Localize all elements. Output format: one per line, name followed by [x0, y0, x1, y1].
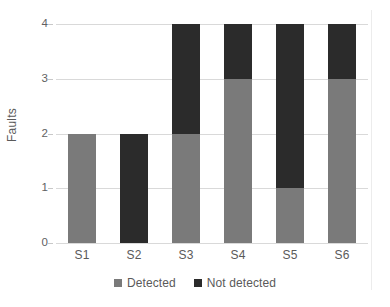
bar-segment[interactable] [224, 24, 252, 79]
chart-legend: DetectedNot detected [0, 276, 390, 290]
legend-item[interactable]: Detected [114, 276, 176, 290]
x-axis-labels: S1S2S3S4S5S6 [56, 248, 368, 268]
stacked-bar-chart: Faults 01234 S1S2S3S4S5S6 DetectedNot de… [0, 0, 390, 307]
y-tick-label: 4 [26, 18, 48, 30]
bars-layer [56, 24, 368, 243]
bar-segment[interactable] [68, 134, 96, 244]
x-tick-label: S2 [108, 248, 160, 262]
bar-segment[interactable] [276, 188, 304, 243]
legend-label: Detected [127, 276, 176, 290]
bar-group[interactable] [68, 24, 96, 243]
plot-area [56, 24, 368, 243]
x-tick-label: S1 [56, 248, 108, 262]
scan-edge-artifact [371, 10, 372, 290]
bar-group[interactable] [120, 24, 148, 243]
y-tick-mark [48, 188, 53, 189]
legend-swatch-icon [194, 279, 202, 287]
y-tick-label: 2 [26, 128, 48, 140]
y-tick-label: 0 [26, 237, 48, 249]
y-tick-mark [48, 79, 53, 80]
bar-segment[interactable] [224, 79, 252, 243]
y-axis-ticks: 01234 [0, 24, 48, 243]
bar-group[interactable] [172, 24, 200, 243]
legend-item[interactable]: Not detected [194, 276, 276, 290]
legend-swatch-icon [114, 279, 122, 287]
bar-group[interactable] [276, 24, 304, 243]
legend-label: Not detected [207, 276, 276, 290]
y-tick-mark [48, 134, 53, 135]
x-tick-label: S5 [264, 248, 316, 262]
gridline [56, 243, 368, 244]
bar-segment[interactable] [328, 24, 356, 79]
bar-segment[interactable] [276, 24, 304, 188]
x-tick-label: S3 [160, 248, 212, 262]
bar-segment[interactable] [172, 24, 200, 134]
bar-segment[interactable] [172, 134, 200, 244]
bar-segment[interactable] [328, 79, 356, 243]
y-tick-label: 3 [26, 73, 48, 85]
x-tick-label: S6 [316, 248, 368, 262]
y-tick-mark [48, 243, 53, 244]
y-tick-mark [48, 24, 53, 25]
bar-group[interactable] [224, 24, 252, 243]
x-tick-label: S4 [212, 248, 264, 262]
bar-segment[interactable] [120, 134, 148, 244]
bar-group[interactable] [328, 24, 356, 243]
y-tick-label: 1 [26, 183, 48, 195]
